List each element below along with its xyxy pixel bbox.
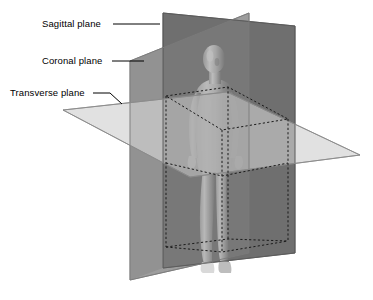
body-planes-illustration	[0, 0, 373, 300]
coronal-plane-front-face	[130, 13, 249, 280]
leader-line-transverse	[93, 93, 122, 104]
label-sagittal-plane: Sagittal plane	[42, 19, 101, 29]
label-transverse-plane: Transverse plane	[10, 88, 85, 98]
label-coronal-plane: Coronal plane	[42, 56, 102, 66]
diagram-canvas: Sagittal plane Coronal plane Transverse …	[0, 0, 373, 300]
